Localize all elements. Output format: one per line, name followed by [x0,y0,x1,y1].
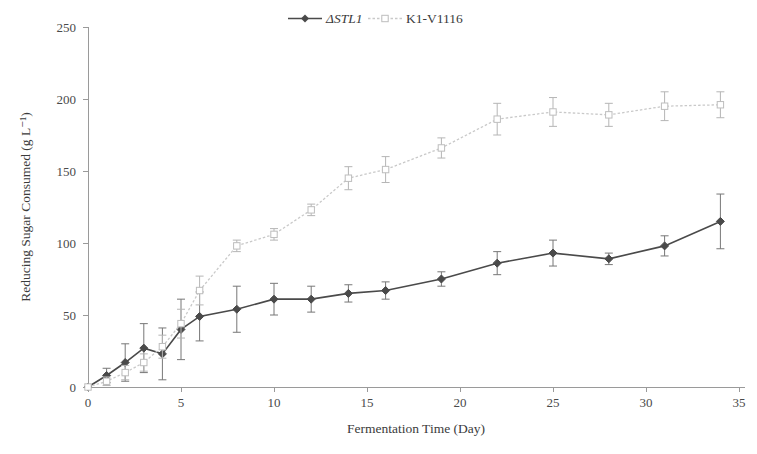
x-tick-label-15: 15 [361,395,374,410]
chart-background [0,0,757,454]
x-tick-label-25: 25 [547,395,560,410]
y-axis-title: Reducing Sugar Consumed (g L⁻¹) [18,112,33,302]
x-axis-title: Fermentation Time (Day) [347,421,485,436]
x-tick-label-30: 30 [640,395,653,410]
chart-figure: 050100150200250 05101520253035 Reducing … [0,0,757,454]
y-tick-label-0: 0 [70,380,77,395]
y-tick-label-50: 50 [63,308,76,323]
line-chart-canvas: 050100150200250 05101520253035 Reducing … [0,0,757,454]
x-tick-label-35: 35 [733,395,746,410]
x-tick-label-10: 10 [268,395,281,410]
y-tick-label-100: 100 [57,236,77,251]
legend-marker-k1v1116 [382,15,388,21]
y-tick-label-250: 250 [57,20,77,35]
legend-label-k1v1116: K1-V1116 [406,11,463,26]
y-tick-label-150: 150 [57,164,77,179]
y-tick-label-200: 200 [57,92,77,107]
x-tick-label-20: 20 [454,395,467,410]
x-tick-label-0: 0 [85,395,92,410]
legend-label-stl1: ΔSTL1 [325,11,362,26]
x-tick-label-5: 5 [178,395,185,410]
